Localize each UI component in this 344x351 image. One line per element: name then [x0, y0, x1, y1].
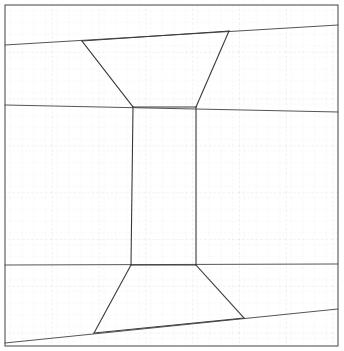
drawing-canvas — [0, 0, 344, 351]
grid-pattern — [5, 5, 338, 346]
figure-svg — [0, 0, 344, 351]
